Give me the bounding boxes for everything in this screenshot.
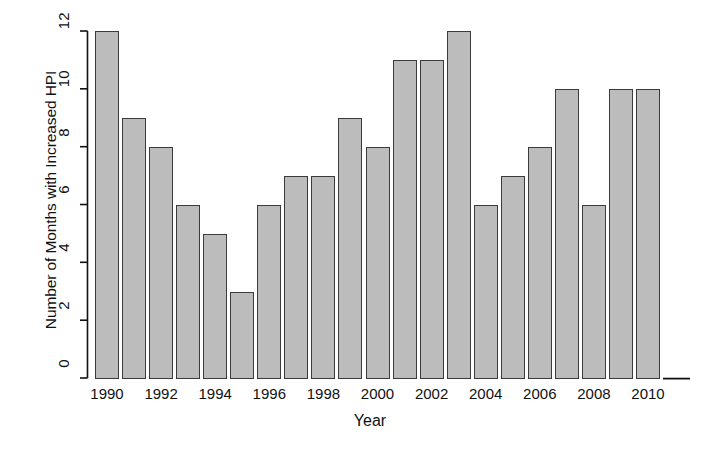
bar — [420, 60, 444, 379]
bar — [284, 176, 308, 379]
y-axis-title: Number of Months with Increased HPI — [38, 10, 64, 390]
bar — [149, 147, 173, 379]
bar — [582, 205, 606, 379]
bar — [528, 147, 552, 379]
bar — [555, 89, 579, 379]
bar — [311, 176, 335, 379]
bar — [95, 31, 119, 379]
xtick-label: 1996 — [239, 385, 299, 402]
xtick-label: 2000 — [348, 385, 408, 402]
xtick-label: 1998 — [293, 385, 353, 402]
bar — [176, 205, 200, 379]
bar — [609, 89, 633, 379]
xtick-label: 1992 — [131, 385, 191, 402]
bar — [338, 118, 362, 379]
bar — [501, 176, 525, 379]
bar — [474, 205, 498, 379]
bar-chart-figure: 0 2 4 6 8 10 12 199019921994199619982000… — [0, 0, 728, 452]
xtick-label: 1990 — [77, 385, 137, 402]
plot-area: 0 2 4 6 8 10 12 199019921994199619982000… — [0, 0, 728, 452]
xtick-label: 2010 — [618, 385, 678, 402]
xtick-label: 2006 — [510, 385, 570, 402]
bar — [447, 31, 471, 379]
xtick-label: 2004 — [456, 385, 516, 402]
xtick-label: 2002 — [402, 385, 462, 402]
bar — [257, 205, 281, 379]
bar — [122, 118, 146, 379]
bar — [366, 147, 390, 379]
bar — [636, 89, 660, 379]
bar — [230, 292, 254, 379]
bar — [203, 234, 227, 379]
bar — [393, 60, 417, 379]
xtick-label: 2008 — [564, 385, 624, 402]
xtick-label: 1994 — [185, 385, 245, 402]
x-axis-title: Year — [300, 412, 440, 430]
